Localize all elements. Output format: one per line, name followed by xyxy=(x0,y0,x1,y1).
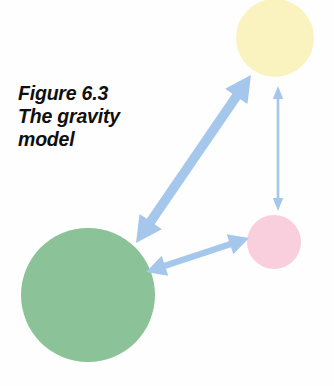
yellow-circle xyxy=(236,0,314,77)
figure-canvas: yellow --> pink --> pink --> Figure 6.3T… xyxy=(0,0,334,386)
pink-circle xyxy=(247,215,301,269)
gravity-model-diagram: yellow --> pink --> pink --> xyxy=(0,0,334,386)
caption-line-1: Figure 6.3 xyxy=(18,82,168,105)
caption-line-2: The gravity xyxy=(18,105,168,128)
green-circle xyxy=(21,228,155,362)
figure-caption: Figure 6.3The gravitymodel xyxy=(18,82,168,151)
caption-line-3: model xyxy=(18,128,168,151)
